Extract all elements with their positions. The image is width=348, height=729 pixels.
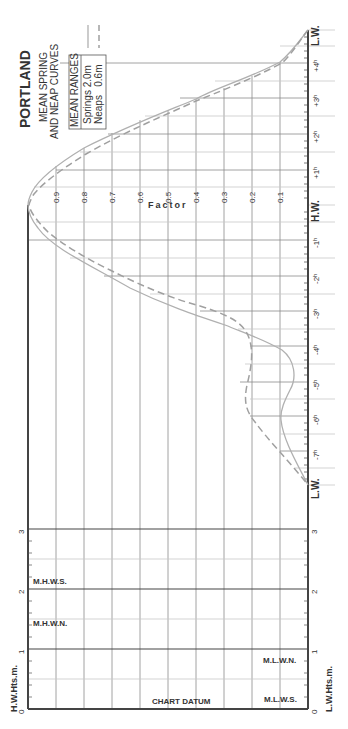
- legend-header: MEAN RANGES: [69, 53, 80, 127]
- lw-label-top: L.W.: [310, 25, 321, 46]
- mlws-label: M.L.W.S.: [264, 695, 297, 704]
- factor-tick-0.7: 0.7: [108, 192, 117, 203]
- legend-neaps: Neaps 0.6m: [93, 65, 104, 124]
- chart-title: PORTLAND: [17, 50, 33, 128]
- time-tick-minus5: -5ʰ: [312, 380, 321, 390]
- time-tick-plus2: +2ʰ: [312, 131, 321, 143]
- time-tick-minus1: -1ʰ: [312, 238, 321, 248]
- height-tick-left-2: 2: [17, 590, 26, 594]
- height-tick-right-2: 2: [310, 590, 319, 594]
- factor-tick-0.6: 0.6: [136, 192, 145, 203]
- factor-gridlines: [56, 62, 280, 709]
- mhws-label: M.H.W.S.: [33, 577, 67, 586]
- mlwn-label: M.L.W.N.: [263, 656, 296, 665]
- height-tick-left-3: 3: [17, 530, 26, 534]
- factor-tick-0.2: 0.2: [248, 192, 257, 203]
- chart-subtitle-line2: AND NEAP CURVES: [49, 44, 60, 139]
- time-tick-minus3: -3ʰ: [312, 309, 321, 319]
- chart-datum-label: CHART DATUM: [152, 697, 211, 706]
- time-tick-minus6: -6ʰ: [312, 415, 321, 425]
- mhwn-label: M.H.W.N.: [33, 619, 67, 628]
- height-tick-right-1: 1: [310, 650, 319, 654]
- factor-tick-0.5: 0.5: [164, 192, 173, 203]
- chart-subtitle-line1: MEAN SPRING: [38, 52, 49, 122]
- hw-heights-label: H.W.Hts.m.: [9, 665, 19, 712]
- height-tick-right-0: 0: [310, 710, 319, 714]
- time-tick-minus7: -7ʰ: [312, 450, 321, 460]
- legend-springs: Springs 2.0m: [82, 65, 93, 124]
- time-tick-plus1: +1ʰ: [312, 167, 321, 179]
- lw-label-bottom: L.W.: [310, 478, 321, 499]
- factor-tick-0.3: 0.3: [220, 192, 229, 203]
- height-tick-left-1: 1: [17, 650, 26, 654]
- height-tick-right-3: 3: [310, 530, 319, 534]
- time-tick-plus3: +3ʰ: [312, 95, 321, 107]
- hw-label: H.W.: [310, 200, 321, 222]
- factor-tick-0.8: 0.8: [80, 192, 89, 203]
- factor-tick-0.4: 0.4: [192, 192, 201, 203]
- time-tick-minus4: -4ʰ: [312, 345, 321, 355]
- time-tick-minus2: -2ʰ: [312, 274, 321, 284]
- factor-tick-0.1: 0.1: [276, 192, 285, 203]
- time-tick-plus4: +4ʰ: [312, 60, 321, 72]
- factor-tick-0.9: 0.9: [52, 192, 61, 203]
- lw-heights-label: L.W.Hts.m.: [324, 666, 334, 712]
